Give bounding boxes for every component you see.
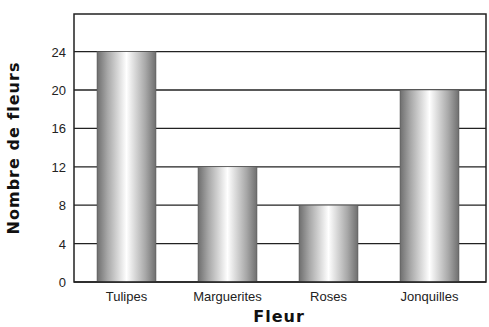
y-tick-label: 12 bbox=[52, 160, 66, 175]
bar-tulipes bbox=[97, 52, 156, 282]
y-tick-label: 24 bbox=[52, 45, 66, 60]
y-tick-label: 0 bbox=[59, 275, 66, 290]
y-tick-label: 20 bbox=[52, 83, 66, 98]
y-tick-label: 8 bbox=[59, 198, 66, 213]
y-axis-title: Nombre de fleurs bbox=[4, 62, 23, 235]
x-category-label: Marguerites bbox=[193, 289, 262, 304]
y-axis-ticks: 04812162024 bbox=[52, 45, 66, 290]
x-category-label: Roses bbox=[310, 289, 347, 304]
x-category-label: Tulipes bbox=[106, 289, 148, 304]
y-tick-label: 16 bbox=[52, 121, 66, 136]
x-axis-title: Fleur bbox=[253, 307, 305, 326]
bar-chart: 04812162024 TulipesMargueritesRosesJonqu… bbox=[0, 0, 489, 327]
bar-roses bbox=[299, 205, 358, 282]
x-axis-labels: TulipesMargueritesRosesJonquilles bbox=[106, 289, 459, 304]
bar-jonquilles bbox=[400, 90, 459, 282]
y-tick-label: 4 bbox=[59, 237, 66, 252]
x-category-label: Jonquilles bbox=[401, 289, 459, 304]
bar-marguerites bbox=[198, 167, 257, 282]
